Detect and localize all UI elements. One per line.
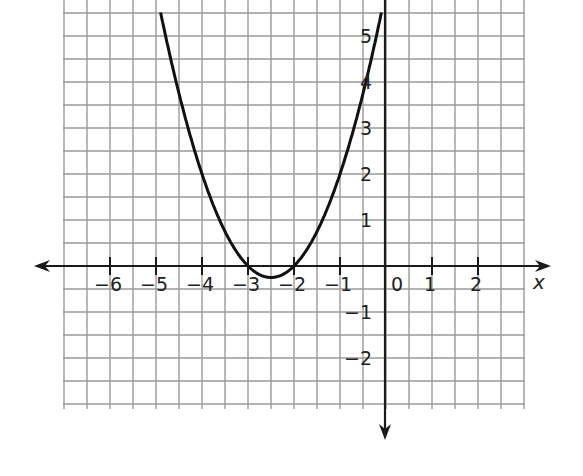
x-tick-label: 0 [391, 273, 403, 295]
x-tick-label: 2 [470, 273, 482, 295]
y-tick-label: 3 [360, 117, 372, 139]
x-tick-label: −2 [278, 273, 306, 295]
y-tick-label: −1 [344, 301, 372, 323]
x-tick-label: −5 [140, 273, 168, 295]
x-tick-label: −3 [232, 273, 260, 295]
x-tick-label: −4 [186, 273, 214, 295]
y-tick-label: 1 [360, 209, 372, 231]
grid [63, 0, 525, 409]
coordinate-plane: −6−5−4−3−2−1012−2−112345x [0, 0, 583, 476]
y-tick-label: 2 [360, 163, 372, 185]
y-tick-label: 4 [360, 71, 372, 93]
x-tick-label: −1 [324, 273, 352, 295]
y-tick-label: −2 [344, 347, 372, 369]
y-tick-label: 5 [360, 25, 372, 47]
x-axis-label: x [532, 270, 545, 294]
x-tick-label: −6 [94, 273, 122, 295]
x-tick-label: 1 [424, 273, 436, 295]
